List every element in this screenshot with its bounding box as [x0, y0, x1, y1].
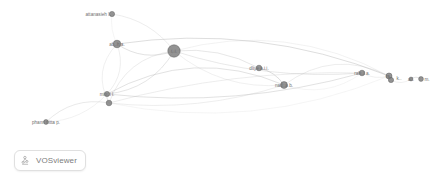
- vosviewer-visualization[interactable]: attanasieh l.ab..h a.t..i.dliye a.i.i.na…: [0, 0, 444, 187]
- network-edge: [109, 85, 284, 105]
- network-edge: [117, 38, 389, 76]
- network-edge: [109, 73, 362, 103]
- edges-layer: [46, 14, 421, 122]
- network-node[interactable]: [419, 77, 424, 82]
- network-edge: [174, 50, 259, 68]
- network-node[interactable]: [388, 77, 393, 82]
- network-edge: [107, 73, 362, 98]
- network-node[interactable]: [168, 45, 180, 57]
- network-edge: [112, 14, 174, 51]
- network-edge: [391, 79, 411, 83]
- nodes-layer[interactable]: [44, 11, 424, 124]
- network-node[interactable]: [106, 100, 112, 106]
- network-edge: [46, 102, 109, 122]
- network-node[interactable]: [256, 65, 262, 71]
- network-node[interactable]: [359, 70, 365, 76]
- network-edge: [107, 51, 174, 94]
- network-edge: [46, 94, 107, 122]
- network-edge: [117, 44, 174, 55]
- network-node[interactable]: [281, 82, 288, 89]
- network-edge: [112, 14, 117, 44]
- network-node[interactable]: [104, 91, 109, 96]
- network-node[interactable]: [44, 120, 49, 125]
- network-node[interactable]: [113, 40, 121, 48]
- network-edge: [284, 73, 362, 90]
- network-edge: [107, 44, 120, 94]
- network-node[interactable]: [109, 11, 114, 16]
- vosviewer-badge[interactable]: VOSviewer: [14, 150, 86, 171]
- network-edge: [107, 68, 284, 94]
- vosviewer-badge-label: VOSviewer: [36, 156, 77, 165]
- vosviewer-logo-icon: [21, 155, 32, 166]
- network-node[interactable]: [409, 77, 413, 81]
